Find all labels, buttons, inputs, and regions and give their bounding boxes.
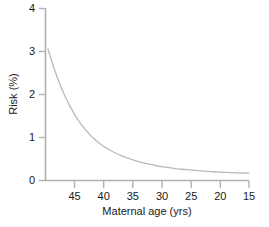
x-tick-label-40: 40	[98, 190, 110, 202]
x-tick-label-20: 20	[214, 190, 226, 202]
x-tick-label-45: 45	[68, 190, 80, 202]
y-tick-label-3: 3	[29, 45, 35, 57]
risk-vs-maternal-age-chart: 4 3 2 1 0 45 40 35 30	[0, 0, 269, 227]
chart-figure: 4 3 2 1 0 45 40 35 30	[0, 0, 269, 227]
y-axis-title: Risk (%)	[7, 73, 19, 115]
y-tick-label-2: 2	[29, 88, 35, 100]
y-tick-label-1: 1	[29, 131, 35, 143]
x-tick-label-25: 25	[185, 190, 197, 202]
x-tick-label-30: 30	[156, 190, 168, 202]
x-tick-label-15: 15	[243, 190, 255, 202]
x-axis-title: Maternal age (yrs)	[102, 205, 191, 217]
x-tick-label-35: 35	[127, 190, 139, 202]
y-tick-label-4: 4	[29, 2, 35, 14]
y-tick-label-0: 0	[29, 174, 35, 186]
